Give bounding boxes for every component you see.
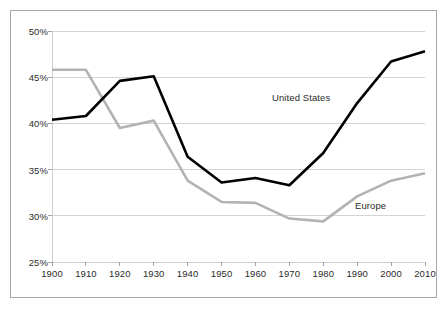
x-tick-label-1990: 1990 xyxy=(346,268,368,279)
x-tick-label-1940: 1940 xyxy=(177,268,199,279)
x-tick-label-1980: 1980 xyxy=(312,268,334,279)
y-tick-label-25: 25% xyxy=(29,257,48,268)
x-tick-label-1950: 1950 xyxy=(211,268,233,279)
y-axis-tick-labels: 50%45%40%35%30%25% xyxy=(10,0,48,314)
gridlines xyxy=(52,31,425,262)
chart-figure: 50%45%40%35%30%25% 190019101920193019401… xyxy=(0,0,448,314)
plot-area xyxy=(52,31,425,262)
y-tick-label-40: 40% xyxy=(29,118,48,129)
series-label-europe: Europe xyxy=(355,200,386,211)
x-tick-label-1900: 1900 xyxy=(41,268,63,279)
x-tick-label-1920: 1920 xyxy=(109,268,131,279)
series-label-united-states: United States xyxy=(272,92,330,103)
y-tick-label-30: 30% xyxy=(29,210,48,221)
y-tick-label-35: 35% xyxy=(29,164,48,175)
series-line-united-states xyxy=(52,51,425,185)
plot-svg xyxy=(52,31,425,262)
x-tick-label-2010: 2010 xyxy=(414,268,436,279)
axis-tickmarks xyxy=(48,31,425,266)
x-tick-label-1910: 1910 xyxy=(75,268,97,279)
y-tick-label-45: 45% xyxy=(29,72,48,83)
x-tick-label-1960: 1960 xyxy=(245,268,267,279)
x-tick-label-1930: 1930 xyxy=(143,268,165,279)
x-tick-label-2000: 2000 xyxy=(380,268,402,279)
y-tick-label-50: 50% xyxy=(29,26,48,37)
x-tick-label-1970: 1970 xyxy=(279,268,301,279)
